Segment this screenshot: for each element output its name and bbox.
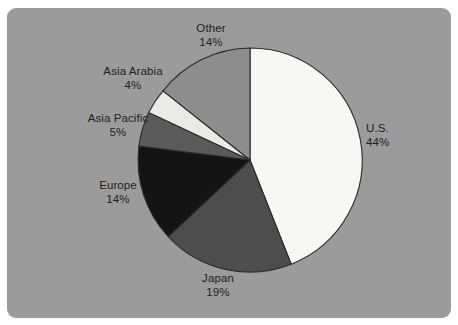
pie-label-asia-pacific: Asia Pacific 5% — [62, 112, 174, 139]
chart-plot-area: Other 14% Asia Arabia 4% Asia Pacific 5%… — [0, 0, 458, 325]
pie-label-us: U.S. 44% — [366, 122, 426, 149]
pie-label-other-name: Other — [165, 22, 257, 36]
pie-label-europe: Europe 14% — [72, 179, 164, 206]
pie-label-us-name: U.S. — [366, 122, 426, 136]
pie-label-japan: Japan 19% — [172, 272, 264, 299]
pie-label-other-percent: 14% — [165, 36, 257, 50]
pie-label-asia-arabia-name: Asia Arabia — [77, 65, 189, 79]
pie-label-other: Other 14% — [165, 22, 257, 49]
pie-label-asia-pacific-percent: 5% — [62, 126, 174, 140]
pie-label-asia-pacific-name: Asia Pacific — [62, 112, 174, 126]
pie-chart-figure: Other 14% Asia Arabia 4% Asia Pacific 5%… — [0, 0, 458, 325]
pie-label-europe-name: Europe — [72, 179, 164, 193]
pie-label-asia-arabia-percent: 4% — [77, 79, 189, 93]
pie-label-europe-percent: 14% — [72, 193, 164, 207]
pie-label-japan-percent: 19% — [172, 286, 264, 300]
pie-label-japan-name: Japan — [172, 272, 264, 286]
pie-label-asia-arabia: Asia Arabia 4% — [77, 65, 189, 92]
pie-label-us-percent: 44% — [366, 136, 426, 150]
